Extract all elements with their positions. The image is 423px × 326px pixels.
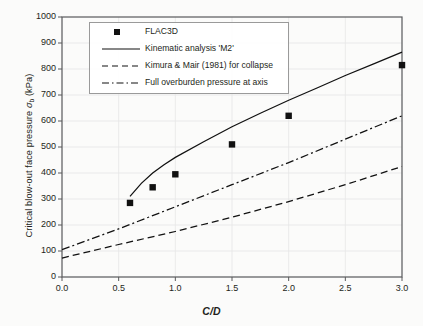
x-tick-label: 3.0 <box>382 283 422 293</box>
chart-legend: FLAC3D Kinematic analysis 'M2' Kimura & … <box>89 22 289 94</box>
legend-item-full-overburden: Full overburden pressure at axis <box>90 75 288 91</box>
legend-item-kimura-mair: Kimura & Mair (1981) for collapse <box>90 58 288 74</box>
data-point <box>127 200 133 206</box>
legend-label: FLAC3D <box>145 26 178 36</box>
y-tick-label: 200 <box>22 219 56 229</box>
x-axis-label: C/D <box>0 305 423 317</box>
x-tick-label: 0.0 <box>42 283 82 293</box>
solid-line-icon <box>100 41 142 57</box>
x-tick-label: 2.5 <box>325 283 365 293</box>
y-tick-label: 1000 <box>22 11 56 21</box>
y-tick-label: 900 <box>22 37 56 47</box>
legend-item-flac3d: FLAC3D <box>90 24 288 40</box>
legend-item-kinematic-m2: Kinematic analysis 'M2' <box>90 41 288 57</box>
data-point <box>229 141 235 147</box>
x-tick-label: 0.5 <box>99 283 139 293</box>
chart-figure: Critical blow-out face pressure σb (kPa)… <box>0 0 423 326</box>
square-marker-icon <box>100 24 142 40</box>
x-tick-label: 1.5 <box>212 283 252 293</box>
legend-label: Kinematic analysis 'M2' <box>145 43 234 53</box>
data-point <box>399 62 405 68</box>
y-tick-label: 0 <box>22 271 56 281</box>
x-axis-label-text: C/D <box>202 305 221 317</box>
y-tick-label: 400 <box>22 167 56 177</box>
y-tick-label: 500 <box>22 141 56 151</box>
x-tick-label: 1.0 <box>155 283 195 293</box>
data-point <box>285 113 291 119</box>
y-tick-label: 100 <box>22 245 56 255</box>
y-tick-label: 700 <box>22 89 56 99</box>
y-tick-label: 800 <box>22 63 56 73</box>
y-axis-sigma: σ <box>24 102 34 108</box>
y-axis-subscript: b <box>28 99 35 103</box>
data-point <box>172 171 178 177</box>
y-tick-label: 300 <box>22 193 56 203</box>
dashed-line-icon <box>100 58 142 74</box>
y-tick-label: 600 <box>22 115 56 125</box>
legend-label: Full overburden pressure at axis <box>145 77 268 87</box>
dash-dot-line-icon <box>100 75 142 91</box>
data-point <box>149 184 155 190</box>
x-tick-label: 2.0 <box>269 283 309 293</box>
legend-label: Kimura & Mair (1981) for collapse <box>145 60 273 70</box>
